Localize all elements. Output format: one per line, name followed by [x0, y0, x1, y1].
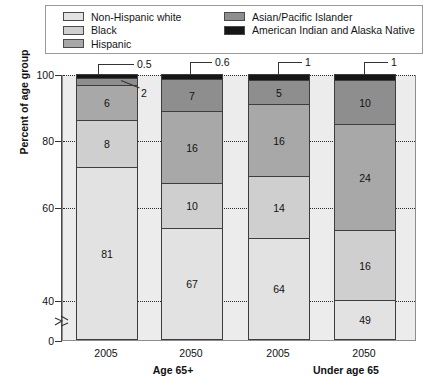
callout-label-06: 0.6: [215, 56, 230, 68]
legend-item-non-hispanic-white: Non-Hispanic white: [63, 10, 181, 24]
legend-label-non-hispanic-white: Non-Hispanic white: [91, 12, 181, 23]
segment-value-white-b1: 67: [186, 278, 198, 290]
segment-white-b1[interactable]: 67: [161, 228, 223, 340]
callout-leader-05: [98, 64, 134, 65]
segment-white-b0[interactable]: 81: [76, 167, 138, 340]
callout-leader-06: [190, 62, 212, 63]
segment-hispanic-b2[interactable]: 16: [248, 104, 310, 176]
legend-swatch-hispanic: [63, 39, 84, 48]
axis-break-icon: [52, 313, 70, 329]
segment-value-hispanic-b1: 16: [186, 142, 198, 154]
segment-value-white-b2: 64: [273, 283, 285, 295]
y-label-100: 100: [28, 69, 54, 81]
legend-item-black: Black: [63, 24, 181, 38]
x-label-under65-2050: 2050: [329, 347, 399, 359]
callout-leader-1a-drop: [278, 62, 279, 75]
segment-asian-b2[interactable]: 5: [248, 80, 310, 104]
legend-item-hispanic: Hispanic: [63, 37, 181, 51]
callout-leader-06-drop: [190, 62, 191, 75]
segment-asian-b1[interactable]: 7: [161, 79, 223, 111]
chart-legend: Non-Hispanic white Black Hispanic Asian/…: [45, 5, 423, 54]
segment-black-b0[interactable]: 8: [76, 120, 138, 167]
x-label-age65-2005: 2005: [71, 347, 141, 359]
segment-value-asian-b2: 5: [276, 87, 282, 99]
segment-white-b3[interactable]: 49: [334, 300, 396, 340]
segment-hispanic-b1[interactable]: 16: [161, 111, 223, 183]
y-label-60: 60: [28, 202, 54, 214]
bar-age65-2005[interactable]: 6 8 81: [76, 74, 138, 340]
legend-label-asian-pacific-islander: Asian/Pacific Islander: [252, 12, 352, 23]
segment-black-b2[interactable]: 14: [248, 176, 310, 238]
y-tick-100: [55, 75, 61, 76]
segment-hispanic-b3[interactable]: 24: [334, 124, 396, 230]
callout-leader-05-drop: [98, 64, 99, 75]
y-label-40: 40: [28, 295, 54, 307]
y-tick-40: [55, 301, 61, 302]
segment-black-b3[interactable]: 16: [334, 230, 396, 300]
callout-label-05: 0.5: [137, 58, 152, 70]
y-tick-0: [55, 341, 61, 342]
legend-column-left: Non-Hispanic white Black Hispanic: [63, 10, 181, 51]
bar-under65-2050[interactable]: 10 24 16 49: [334, 74, 396, 340]
segment-hispanic-b0[interactable]: 6: [76, 85, 138, 120]
legend-label-black: Black: [91, 25, 117, 36]
segment-value-white-b3: 49: [359, 314, 371, 326]
legend-label-american-indian-alaska-native: American Indian and Alaska Native: [252, 25, 415, 36]
segment-value-black-b1: 10: [186, 200, 198, 212]
segment-value-hispanic-b2: 16: [273, 135, 285, 147]
segment-value-black-b2: 14: [273, 202, 285, 214]
callout-label-1a: 1: [305, 56, 311, 68]
segment-value-hispanic-b3: 24: [359, 172, 371, 184]
segment-value-asian-b3: 10: [359, 97, 371, 109]
callout-label-1b: 1: [391, 56, 397, 68]
legend-swatch-asian-pacific-islander: [224, 12, 245, 21]
y-tick-60: [55, 208, 61, 209]
legend-item-american-indian-alaska-native: American Indian and Alaska Native: [224, 24, 415, 38]
callout-leader-1b: [364, 62, 388, 63]
legend-label-hispanic: Hispanic: [91, 39, 131, 50]
segment-white-b2[interactable]: 64: [248, 238, 310, 340]
legend-swatch-american-indian-alaska-native: [224, 26, 245, 35]
x-label-under65-2005: 2005: [243, 347, 313, 359]
segment-value-black-b0: 8: [104, 138, 110, 150]
segment-value-asian-b1: 7: [189, 90, 195, 102]
callout-leader-1a: [278, 62, 302, 63]
chart-root: Non-Hispanic white Black Hispanic Asian/…: [0, 0, 430, 389]
y-tick-80: [55, 141, 61, 142]
y-axis-labels: 100 80 60 40 0: [24, 0, 54, 389]
plot-inner: 6 8 81 7 16 10: [63, 75, 415, 340]
callout-leader-1b-drop: [364, 62, 365, 75]
bar-age65-2050[interactable]: 7 16 10 67: [161, 74, 223, 340]
legend-column-right: Asian/Pacific Islander American Indian a…: [224, 10, 415, 37]
x-label-age65-2050: 2050: [156, 347, 226, 359]
x-group-label-age65: Age 65+: [93, 364, 253, 376]
y-label-0: 0: [28, 335, 54, 347]
bar-under65-2005[interactable]: 5 16 14 64: [248, 74, 310, 340]
x-group-label-under65: Under age 65: [266, 364, 426, 376]
plot-area: 6 8 81 7 16 10: [62, 75, 416, 341]
y-label-80: 80: [28, 135, 54, 147]
segment-value-hispanic-b0: 6: [104, 97, 110, 109]
segment-value-black-b3: 16: [359, 260, 371, 272]
legend-swatch-black: [63, 26, 84, 35]
segment-black-b1[interactable]: 10: [161, 183, 223, 228]
segment-value-white-b0: 81: [101, 248, 113, 260]
segment-asian-b3[interactable]: 10: [334, 80, 396, 124]
legend-item-asian-pacific-islander: Asian/Pacific Islander: [224, 10, 415, 24]
callout-label-2: 2: [141, 87, 147, 99]
legend-swatch-non-hispanic-white: [63, 12, 84, 21]
y-axis-line: [61, 75, 62, 342]
